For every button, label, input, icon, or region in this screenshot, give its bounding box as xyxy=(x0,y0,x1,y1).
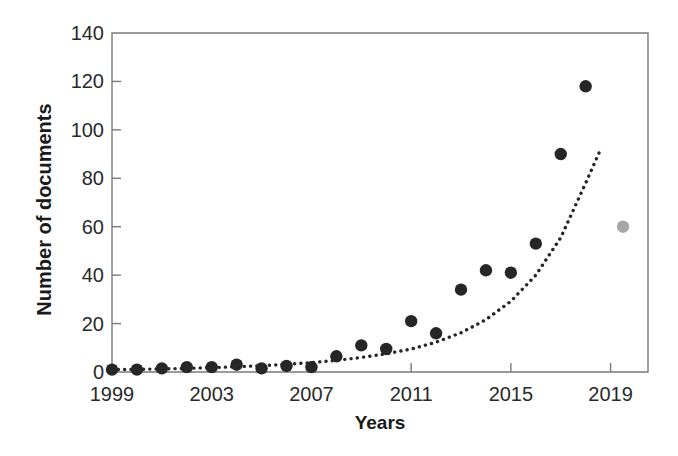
data-points xyxy=(106,80,629,376)
x-tick-2019: 2019 xyxy=(571,384,651,404)
x-axis-title: Years xyxy=(112,412,648,434)
y-tick-120: 120 xyxy=(34,71,104,91)
x-axis-ticks xyxy=(212,363,611,372)
trend-line-dotted xyxy=(112,149,601,369)
x-tick-2015: 2015 xyxy=(471,384,551,404)
x-tick-2007: 2007 xyxy=(271,384,351,404)
y-tick-0: 0 xyxy=(34,362,104,382)
x-tick-2011: 2011 xyxy=(371,384,451,404)
y-tick-60: 60 xyxy=(34,217,104,237)
y-tick-100: 100 xyxy=(34,120,104,140)
chart-figure: Number of documents Years 02040608010012… xyxy=(0,0,678,456)
y-axis-ticks xyxy=(112,81,121,323)
y-tick-140: 140 xyxy=(34,23,104,43)
y-tick-80: 80 xyxy=(34,168,104,188)
y-tick-20: 20 xyxy=(34,314,104,334)
y-axis-title: Number of documents xyxy=(33,80,56,340)
axis-frame xyxy=(112,33,648,372)
x-tick-2003: 2003 xyxy=(172,384,252,404)
y-tick-40: 40 xyxy=(34,265,104,285)
x-tick-1999: 1999 xyxy=(72,384,152,404)
